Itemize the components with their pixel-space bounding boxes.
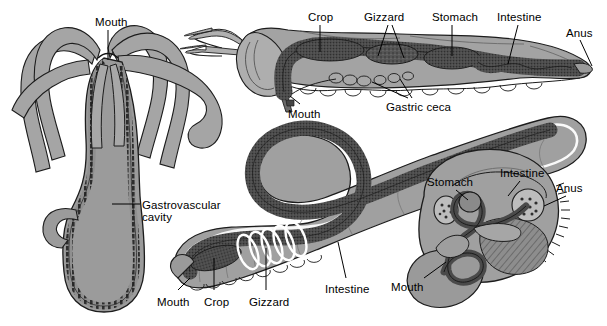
earthworm-label-crop: Crop [204,296,229,309]
grasshopper-label-gastric-ceca: Gastric ceca [386,101,451,114]
bivalve-label-anus: Anus [556,182,583,195]
hydra-label-mouth: Mouth [95,16,127,29]
grasshopper-label-mouth: Mouth [288,108,320,121]
figure-artwork [0,0,607,326]
bivalve-label-mouth: Mouth [391,281,423,294]
grasshopper-label-gizzard: Gizzard [364,11,404,24]
grasshopper-label-intestine: Intestine [497,11,541,24]
bivalve-artwork [407,149,570,307]
grasshopper-label-anus: Anus [566,27,593,40]
grasshopper-label-stomach: Stomach [432,11,478,24]
earthworm-label-gizzard: Gizzard [249,296,289,309]
hydra-label-gastrovascular-line2: cavity [142,211,172,224]
earthworm-label-mouth: Mouth [157,296,189,309]
earthworm-label-intestine: Intestine [325,283,369,296]
grasshopper-artwork [180,25,592,112]
bivalve-label-intestine: Intestine [500,167,544,180]
bivalve-label-stomach: Stomach [427,176,473,189]
digestive-systems-figure: Mouth Gastrovascular cavity Crop Gizzard… [0,0,607,326]
hydra-label-gastrovascular: Gastrovascular [142,199,221,212]
grasshopper-label-crop: Crop [308,11,333,24]
